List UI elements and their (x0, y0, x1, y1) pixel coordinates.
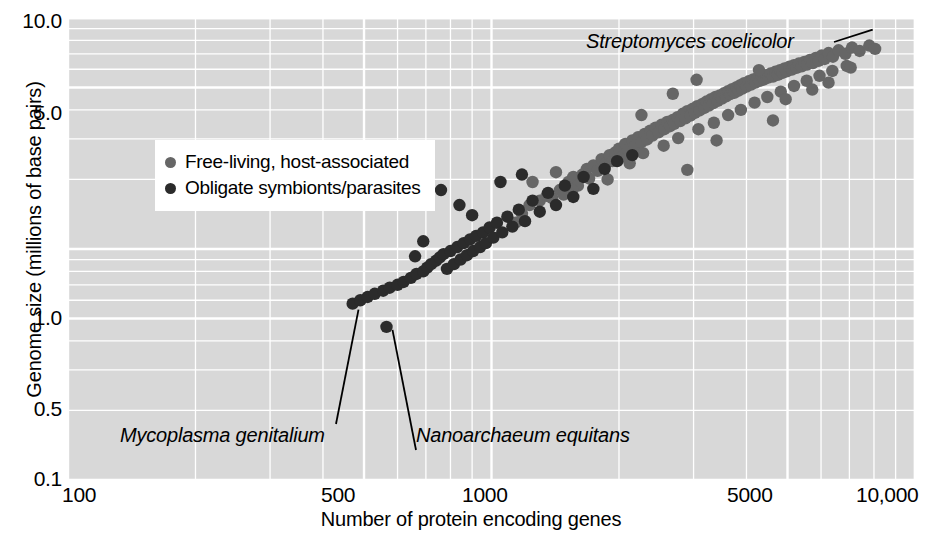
data-point (826, 65, 838, 77)
data-point (753, 64, 765, 76)
data-point (380, 321, 392, 333)
data-point (417, 235, 429, 247)
data-point (513, 203, 525, 215)
gridlines (68, 18, 915, 480)
data-point (767, 114, 779, 126)
data-point (466, 209, 478, 221)
x-tick-100: 100 (62, 484, 96, 505)
y-axis-title: Genome size (millions of base pairs) (23, 20, 46, 460)
data-point (722, 109, 734, 121)
data-point (611, 155, 623, 167)
data-point (761, 91, 773, 103)
data-point (435, 184, 447, 196)
data-point (550, 199, 562, 211)
annotation-streptomyces-coelicolor: Streptomyces coelicolor (586, 30, 794, 53)
x-tick-1000: 1000 (462, 484, 508, 505)
series-free-living-points (509, 39, 881, 229)
data-point (409, 250, 421, 262)
legend-item-obligate: Obligate symbionts/parasites (165, 175, 421, 201)
data-point (710, 134, 722, 146)
data-point (637, 147, 649, 159)
data-point (526, 176, 538, 188)
legend-label-obligate: Obligate symbionts/parasites (185, 177, 421, 199)
legend: Free-living, host-associated Obligate sy… (155, 140, 435, 211)
y-tick-0.1: 0.1 (34, 468, 62, 489)
data-point (577, 171, 589, 183)
data-point (708, 117, 720, 129)
data-point (506, 220, 518, 232)
data-point (626, 149, 638, 161)
annotation-mycoplasma-genitalium: Mycoplasma genitalium (120, 424, 325, 447)
data-point (788, 80, 800, 92)
data-point (692, 123, 704, 135)
data-point (657, 140, 669, 152)
data-point (748, 96, 760, 108)
x-tick-500: 500 (321, 484, 355, 505)
legend-label-free-living: Free-living, host-associated (185, 151, 409, 173)
data-point (550, 166, 562, 178)
data-point (601, 173, 613, 185)
legend-item-free-living: Free-living, host-associated (165, 149, 421, 175)
data-point (519, 215, 531, 227)
data-point (587, 183, 599, 195)
leader-line (392, 330, 416, 450)
data-point (542, 187, 554, 199)
data-point (681, 164, 693, 176)
data-point (534, 206, 546, 218)
data-point (806, 83, 818, 95)
data-point (453, 199, 465, 211)
x-tick-10000: 10,000 (856, 484, 918, 505)
leader-line (336, 310, 359, 424)
data-point (869, 43, 881, 55)
data-point (598, 163, 610, 175)
annotation-leader-lines (336, 30, 873, 450)
genome-size-scatter-figure: 10.0 5.0 1.0 0.5 0.1 100 500 1000 5000 1… (0, 0, 942, 543)
data-point (672, 132, 684, 144)
x-tick-5000: 5000 (727, 484, 773, 505)
data-point (822, 76, 834, 88)
data-point (635, 109, 647, 121)
data-point (494, 176, 506, 188)
data-point (690, 74, 702, 86)
legend-marker-free-living-icon (165, 157, 176, 168)
plot-area (68, 18, 915, 480)
data-point (567, 191, 579, 203)
data-point (516, 168, 528, 180)
data-point (667, 88, 679, 100)
data-point (779, 93, 791, 105)
data-point (526, 194, 538, 206)
plot-svg (68, 18, 915, 480)
legend-marker-obligate-icon (165, 183, 176, 194)
data-point (735, 104, 747, 116)
x-axis-title: Number of protein encoding genes (0, 508, 942, 531)
data-point (845, 61, 857, 73)
data-point (559, 179, 571, 191)
annotation-nanoarchaeum-equitans: Nanoarchaeum equitans (416, 424, 630, 447)
